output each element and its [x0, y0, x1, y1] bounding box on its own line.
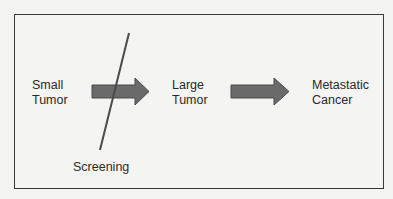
diagram-graphics — [0, 0, 393, 199]
arrow-icon-1 — [92, 78, 149, 105]
arrow-icon-2 — [231, 78, 289, 105]
